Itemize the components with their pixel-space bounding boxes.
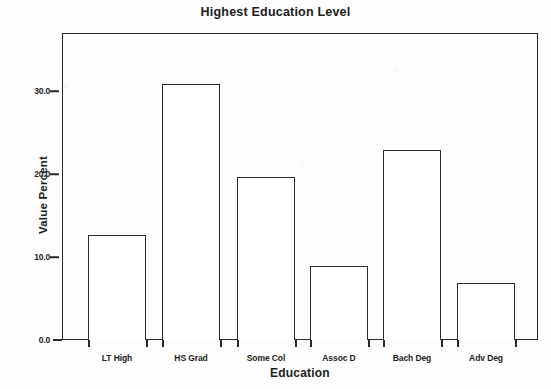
y-tick-mark xyxy=(50,90,59,92)
x-axis: LT HighHS GradSome ColAssoc DBach DegAdv… xyxy=(62,340,538,389)
x-tick-label-adv-deg: Adv Deg xyxy=(469,353,503,363)
bar-hs-grad xyxy=(162,84,220,340)
y-tick-label: 30.0 xyxy=(34,86,50,96)
bar-lt-high xyxy=(88,235,146,340)
x-tick-label-bach-deg: Bach Deg xyxy=(393,353,431,363)
x-tick-label-some-col: Some Col xyxy=(247,353,285,363)
x-tick-mark xyxy=(88,340,90,347)
x-tick-mark xyxy=(383,340,385,347)
x-tick-mark xyxy=(441,340,443,347)
x-tick-mark xyxy=(457,340,459,347)
bars-layer xyxy=(62,33,538,340)
x-tick-mark xyxy=(162,340,164,347)
x-tick-label-hs-grad: HS Grad xyxy=(174,353,207,363)
bar-bach-deg xyxy=(383,150,441,340)
chart-page: Highest Education Level Value Percent 0.… xyxy=(0,0,551,389)
bar-some-col xyxy=(237,177,295,340)
y-axis: Value Percent 0.010.020.030.0 xyxy=(0,0,62,389)
x-tick-mark xyxy=(237,340,239,347)
bar-adv-deg xyxy=(457,283,515,340)
y-tick-label: 20.0 xyxy=(34,169,50,179)
y-tick-mark xyxy=(50,256,59,258)
x-tick-mark xyxy=(515,340,517,347)
y-tick-label: 0.0 xyxy=(39,335,50,345)
y-tick-label: 10.0 xyxy=(34,252,50,262)
x-tick-mark xyxy=(368,340,370,347)
x-tick-label-lt-high: LT High xyxy=(102,353,132,363)
x-tick-label-assoc-d: Assoc D xyxy=(322,353,355,363)
x-axis-title: Education xyxy=(62,366,538,380)
y-axis-zero-tick-mark xyxy=(53,339,62,341)
x-tick-mark xyxy=(310,340,312,347)
y-tick-mark xyxy=(50,173,59,175)
y-axis-title: Value Percent xyxy=(37,155,49,233)
x-tick-mark xyxy=(146,340,148,347)
x-tick-mark xyxy=(220,340,222,347)
chart-title: Highest Education Level xyxy=(0,5,551,19)
x-tick-mark xyxy=(295,340,297,347)
bar-assoc-d xyxy=(310,266,368,340)
